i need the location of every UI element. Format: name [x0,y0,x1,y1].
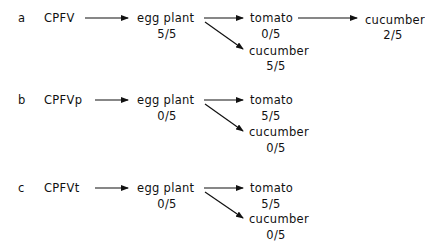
host-tomato-score: 0/5 [261,28,280,41]
host-cucumber-secondary: cucumber [365,14,425,27]
host-cucumber-score: 0/5 [266,229,285,242]
host-eggplant: egg plant [137,12,194,25]
arrow-c-eggplant-to-cucumber [205,192,243,218]
host-tomato: tomato [250,94,293,107]
arrow-a-eggplant-to-cucumber [205,22,243,49]
host-tomato-score: 5/5 [261,198,280,211]
virus-name: CPFVt [44,182,79,195]
host-cucumber: cucumber [249,213,309,226]
panel-label: b [18,94,26,107]
host-tomato: tomato [250,182,293,195]
virus-name: CPFVp [44,94,82,107]
arrow-b-eggplant-to-cucumber [205,104,243,131]
panel-label: a [18,12,25,25]
host-tomato-score: 5/5 [261,110,280,123]
host-cucumber-secondary-score: 2/5 [383,29,402,42]
virus-name: CPFV [44,12,75,25]
panel-label: c [18,182,25,195]
host-cucumber: cucumber [249,45,309,58]
host-eggplant: egg plant [137,182,194,195]
host-eggplant-score: 0/5 [157,110,176,123]
host-cucumber: cucumber [249,126,309,139]
host-eggplant-score: 5/5 [157,28,176,41]
host-eggplant: egg plant [137,94,194,107]
host-cucumber-score: 0/5 [266,142,285,155]
host-cucumber-score: 5/5 [266,60,285,73]
host-tomato: tomato [250,12,293,25]
host-eggplant-score: 0/5 [157,198,176,211]
